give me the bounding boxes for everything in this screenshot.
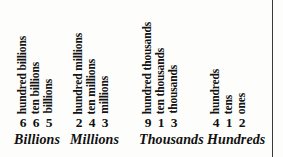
place-labels-hundreds: hundreds tens ones (207, 0, 251, 114)
digit-cell: 6 (30, 116, 43, 130)
place-slot: thousands (168, 0, 181, 114)
period-group-millions: hundred millions ten millions millions 2… (70, 0, 114, 157)
place-label: ten millions (86, 59, 98, 114)
place-slot: hundred thousands (142, 0, 155, 114)
place-label: ten billions (30, 62, 42, 114)
place-label: billions (43, 79, 55, 114)
place-label: tens (223, 95, 235, 114)
period-label: Billions (14, 133, 58, 153)
digit-cell: 4 (210, 116, 223, 130)
place-labels-thousands: hundred thousands ten thousands thousand… (139, 0, 183, 114)
period-group-hundreds: hundreds tens ones 4 1 2 Hundreds (207, 0, 251, 157)
place-slot: ten billions (30, 0, 43, 114)
place-slot: tens (223, 0, 236, 114)
digit-cell: 3 (168, 116, 181, 130)
place-slot: millions (99, 0, 112, 114)
digit-row-billions: 6 6 5 (14, 114, 58, 132)
digit-row-thousands: 9 1 3 (139, 114, 183, 132)
place-label: hundred millions (73, 33, 85, 114)
place-slot: ten thousands (155, 0, 168, 114)
place-label: hundred thousands (142, 22, 154, 114)
place-label: millions (99, 76, 111, 114)
place-value-groups: hundred billions ten billions billions 6… (0, 0, 272, 157)
place-labels-billions: hundred billions ten billions billions (14, 0, 58, 114)
place-slot: hundred millions (73, 0, 86, 114)
period-group-billions: hundred billions ten billions billions 6… (14, 0, 58, 157)
digit-cell: 9 (142, 116, 155, 130)
place-label: thousands (168, 65, 180, 114)
digit-row-millions: 2 4 3 (70, 114, 114, 132)
place-labels-millions: hundred millions ten millions millions (70, 0, 114, 114)
digit-cell: 6 (17, 116, 30, 130)
digit-cell: 4 (86, 116, 99, 130)
place-slot: hundreds (210, 0, 223, 114)
period-label: Millions (70, 133, 114, 153)
period-label: Thousands (139, 133, 183, 153)
place-label: ten thousands (155, 48, 167, 114)
digit-cell: 1 (223, 116, 236, 130)
digit-cell: 1 (155, 116, 168, 130)
place-label: hundred billions (17, 36, 29, 114)
place-label: ones (236, 93, 248, 114)
place-slot: ten millions (86, 0, 99, 114)
digit-cell: 2 (73, 116, 86, 130)
page-margin-rule (272, 0, 273, 157)
digit-cell: 5 (43, 116, 56, 130)
place-slot: hundred billions (17, 0, 30, 114)
digit-cell: 3 (99, 116, 112, 130)
digit-row-hundreds: 4 1 2 (207, 114, 251, 132)
period-label: Hundreds (207, 133, 251, 153)
place-value-chart: hundred billions ten billions billions 6… (0, 0, 283, 157)
digit-cell: 2 (236, 116, 249, 130)
place-slot: ones (236, 0, 249, 114)
period-group-thousands: hundred thousands ten thousands thousand… (139, 0, 183, 157)
place-label: hundreds (210, 69, 222, 114)
place-slot: billions (43, 0, 56, 114)
